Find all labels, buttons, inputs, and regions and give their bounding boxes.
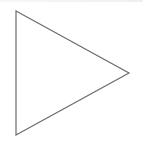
play-triangle-icon — [16, 11, 129, 135]
diagram-canvas — [0, 0, 143, 144]
